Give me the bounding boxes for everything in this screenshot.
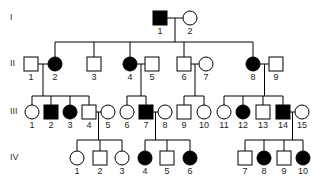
individual-number: 9 <box>268 72 284 82</box>
unaffected-female-genIII-8 <box>158 105 172 119</box>
affected-female-genII-2 <box>48 57 62 71</box>
unaffected-male-genII-5 <box>145 57 159 71</box>
generation-label: III <box>10 106 18 116</box>
individual-number: 8 <box>157 120 173 130</box>
individual-number: 6 <box>119 120 135 130</box>
individual-number: 13 <box>255 120 271 130</box>
unaffected-male-genIV-2 <box>93 151 107 165</box>
individual-number: 5 <box>100 120 116 130</box>
individual-number: 15 <box>294 120 310 130</box>
affected-female-genIII-3 <box>63 105 77 119</box>
individual-number: 12 <box>235 120 251 130</box>
individual-number: 2 <box>43 120 59 130</box>
unaffected-male-genIV-7 <box>238 151 252 165</box>
individual-number: 2 <box>92 166 108 176</box>
individual-number: 14 <box>275 120 291 130</box>
individual-number: 3 <box>86 72 102 82</box>
unaffected-female-genIV-1 <box>70 151 84 165</box>
unaffected-female-genIV-3 <box>115 151 129 165</box>
unaffected-male-genII-1 <box>24 57 38 71</box>
individual-number: 2 <box>182 26 198 36</box>
individual-number: 6 <box>182 166 198 176</box>
unaffected-female-genIII-11 <box>217 105 231 119</box>
unaffected-female-genIII-15 <box>295 105 309 119</box>
unaffected-male-genIV-5 <box>160 151 174 165</box>
affected-female-genII-8 <box>246 57 260 71</box>
individual-number: 1 <box>23 72 39 82</box>
individual-number: 11 <box>216 120 232 130</box>
unaffected-female-genIII-1 <box>25 105 39 119</box>
affected-female-genIV-4 <box>138 151 152 165</box>
individual-number: 5 <box>159 166 175 176</box>
affected-male-genI-1 <box>153 11 167 25</box>
individual-number: 7 <box>237 166 253 176</box>
unaffected-male-genIV-9 <box>277 151 291 165</box>
individual-number: 8 <box>256 166 272 176</box>
individual-number: 10 <box>196 120 212 130</box>
affected-male-genIII-14 <box>276 105 290 119</box>
unaffected-female-genI-2 <box>183 11 197 25</box>
individual-number: 3 <box>62 120 78 130</box>
individual-number: 1 <box>152 26 168 36</box>
unaffected-male-genIII-4 <box>82 105 96 119</box>
individual-number: 6 <box>176 72 192 82</box>
individual-number: 9 <box>276 166 292 176</box>
unaffected-male-genIII-9 <box>177 105 191 119</box>
individual-number: 7 <box>138 120 154 130</box>
unaffected-female-genII-7 <box>199 57 213 71</box>
generation-label: II <box>10 58 15 68</box>
individual-number: 5 <box>144 72 160 82</box>
individual-number: 4 <box>137 166 153 176</box>
unaffected-male-genII-6 <box>177 57 191 71</box>
pedigree-chart: 1212345678912345678910111213141512345678… <box>0 0 322 187</box>
unaffected-female-genIII-10 <box>197 105 211 119</box>
individual-number: 10 <box>295 166 311 176</box>
generation-label: IV <box>10 152 19 162</box>
individual-number: 8 <box>245 72 261 82</box>
unaffected-female-genIII-5 <box>101 105 115 119</box>
unaffected-female-genIII-6 <box>120 105 134 119</box>
individual-number: 2 <box>47 72 63 82</box>
unaffected-male-genII-9 <box>269 57 283 71</box>
affected-female-genIV-8 <box>257 151 271 165</box>
individual-number: 1 <box>24 120 40 130</box>
affected-male-genIII-2 <box>44 105 58 119</box>
affected-female-genIV-6 <box>183 151 197 165</box>
individual-number: 7 <box>198 72 214 82</box>
individual-number: 9 <box>176 120 192 130</box>
unaffected-male-genII-3 <box>87 57 101 71</box>
affected-male-genIII-7 <box>139 105 153 119</box>
affected-female-genIV-10 <box>296 151 310 165</box>
generation-label: I <box>10 12 13 22</box>
unaffected-male-genIII-13 <box>256 105 270 119</box>
individual-number: 1 <box>69 166 85 176</box>
affected-female-genIII-12 <box>236 105 250 119</box>
individual-number: 3 <box>114 166 130 176</box>
individual-number: 4 <box>122 72 138 82</box>
individual-number: 4 <box>81 120 97 130</box>
affected-female-genII-4 <box>123 57 137 71</box>
